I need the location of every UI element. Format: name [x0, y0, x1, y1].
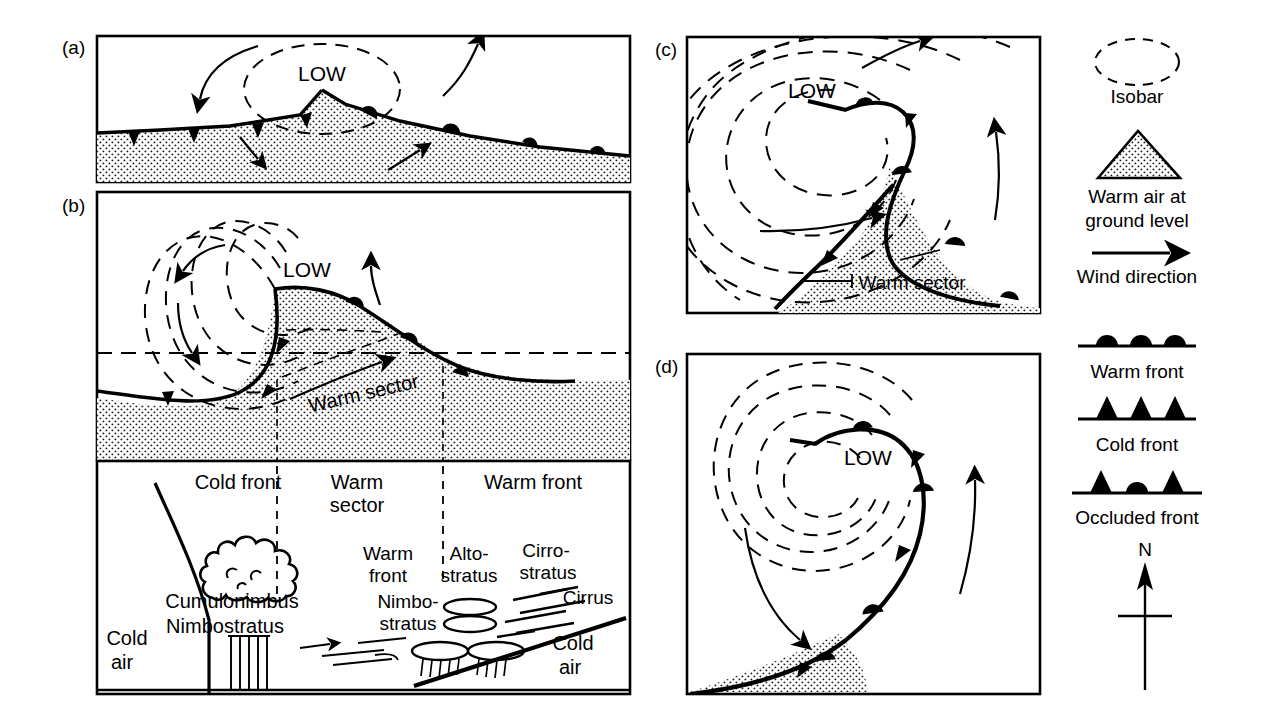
- legend-label-warm-air-1: Warm air at: [1088, 186, 1186, 207]
- legend: Isobar Warm air at ground level Wind dir…: [1072, 39, 1202, 690]
- legend-item-warm-air: Warm air at ground level: [1085, 131, 1189, 231]
- label-alto-l1: Alto-: [449, 543, 488, 564]
- label-cirro-l2: stratus: [519, 562, 576, 583]
- label-alto-l2: stratus: [440, 565, 497, 586]
- warm-front-icon: [1078, 335, 1196, 346]
- label-cold-air-right-l2: air: [559, 656, 582, 678]
- cross-section-panel: Cold front Warm sector Warm front Warm f…: [97, 461, 630, 694]
- legend-label-occluded-front: Occluded front: [1075, 507, 1199, 528]
- warm-air-icon: [1098, 131, 1180, 178]
- occluded-front-icon: [1072, 470, 1202, 493]
- legend-label-cold-front: Cold front: [1096, 434, 1179, 455]
- legend-item-cold-front: Cold front: [1078, 396, 1196, 455]
- label-nimbo-l1: Nimbo-: [377, 591, 438, 612]
- label-nimbo-l2: stratus: [379, 613, 436, 634]
- label-cold-air-left-l1: Cold: [106, 627, 147, 649]
- north-label: N: [1138, 539, 1152, 560]
- label-warm-front-l1: Warm: [363, 543, 413, 564]
- panel-b: Warm sector LOW: [97, 192, 630, 460]
- low-label-a: LOW: [298, 62, 346, 85]
- panel-letter-a: (a): [62, 37, 85, 58]
- panel-letter-b: (b): [62, 195, 85, 216]
- label-warm-front-l2: front: [369, 565, 408, 586]
- label-warm-sector-l1: Warm: [331, 471, 384, 493]
- label-cumulonimbus: Cumulonimbus: [165, 590, 298, 612]
- legend-item-wind: Wind direction: [1077, 253, 1197, 287]
- panel-d: LOW: [687, 354, 1040, 694]
- weather-fronts-figure: LOW (a): [0, 0, 1267, 717]
- label-cold-front-top: Cold front: [195, 471, 282, 493]
- panel-letter-c: (c): [655, 39, 677, 60]
- legend-label-isobar: Isobar: [1111, 86, 1164, 107]
- label-nimbostratus: Nimbostratus: [166, 615, 284, 637]
- panel-a: LOW: [97, 36, 630, 182]
- legend-item-warm-front: Warm front: [1078, 335, 1196, 382]
- label-cold-air-right-l1: Cold: [552, 632, 593, 654]
- low-label-b: LOW: [283, 258, 331, 281]
- legend-label-warm-front: Warm front: [1090, 361, 1184, 382]
- legend-item-isobar: Isobar: [1095, 39, 1179, 107]
- panel-c: Warm sector LOW: [662, 26, 1040, 313]
- label-cold-air-left-l2: air: [111, 651, 134, 673]
- isobar-icon: [1095, 39, 1179, 85]
- legend-label-wind: Wind direction: [1077, 266, 1197, 287]
- label-warm-front-top: Warm front: [484, 471, 583, 493]
- low-label-c: LOW: [788, 79, 836, 102]
- cold-front-icon: [1078, 396, 1196, 419]
- low-label-d: LOW: [844, 446, 892, 469]
- north-arrow: N: [1118, 539, 1172, 690]
- panel-letter-d: (d): [655, 356, 678, 377]
- legend-item-occluded-front: Occluded front: [1072, 470, 1202, 528]
- legend-label-warm-air-2: ground level: [1085, 210, 1189, 231]
- label-cirrus: Cirrus: [563, 587, 614, 608]
- warm-sector-label-c: Warm sector: [859, 272, 967, 293]
- label-warm-sector-l2: sector: [330, 494, 385, 516]
- label-cirro-l1: Cirro-: [522, 540, 570, 561]
